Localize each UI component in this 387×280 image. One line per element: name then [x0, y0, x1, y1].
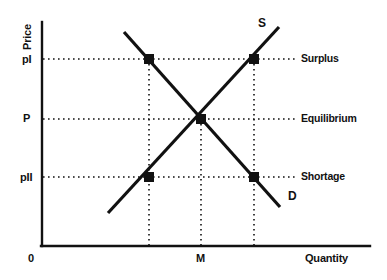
marker-equilibrium-point: [196, 114, 206, 124]
annotation-shortage: Shortage: [301, 171, 345, 182]
marker-shortage-supply-point: [144, 172, 154, 182]
supply-curve-label: S: [258, 17, 266, 29]
x-tick-label-M: M: [196, 253, 205, 264]
y-tick-label-P: P: [23, 113, 30, 124]
chart-canvas: [0, 0, 387, 280]
marker-surplus-demand-point: [144, 54, 154, 64]
demand-curve-label: D: [288, 190, 297, 202]
origin-label: 0: [28, 253, 34, 264]
x-axis-title: Quantity: [305, 253, 348, 264]
marker-shortage-demand-point: [249, 172, 259, 182]
annotation-surplus: Surplus: [301, 53, 339, 64]
supply-demand-chart: Price pI P pII 0 M Quantity S D Surplus …: [0, 0, 387, 280]
horizontal-guide-lines: [43, 59, 296, 177]
annotation-equilibrium: Equilibrium: [301, 113, 357, 124]
marker-surplus-supply-point: [249, 54, 259, 64]
y-axis-title: Price: [22, 24, 33, 50]
y-tick-label-pI: pI: [22, 54, 31, 65]
y-tick-label-pII: pII: [20, 172, 32, 183]
